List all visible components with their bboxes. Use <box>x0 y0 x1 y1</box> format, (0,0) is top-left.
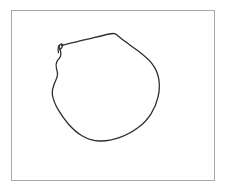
sketch-surface[interactable] <box>0 0 226 192</box>
drawing-frame <box>12 11 215 181</box>
drawing-canvas[interactable] <box>0 0 226 192</box>
